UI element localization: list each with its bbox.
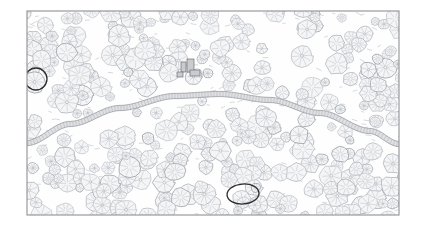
- tree-canopy-symbol: [200, 50, 210, 59]
- tree-canopy-symbol: [296, 89, 308, 100]
- canopy-outline: [344, 73, 358, 86]
- canopy-outline: [256, 109, 277, 128]
- tree-canopy-symbol: [371, 17, 379, 25]
- shrub-dash: [322, 202, 326, 203]
- structure-d: [177, 72, 183, 77]
- tree-canopy-symbol: [316, 154, 329, 165]
- tree-canopy-symbol: [69, 65, 91, 85]
- tree-canopy-symbol: [344, 73, 358, 86]
- tree-canopy-symbol: [50, 58, 59, 66]
- tree-canopy-symbol: [146, 18, 155, 26]
- shrub-dash: [195, 214, 198, 215]
- tree-canopy-symbol: [124, 68, 134, 77]
- site-plan-drawing: [0, 0, 426, 228]
- structure-a: [181, 62, 186, 72]
- canopy-outline: [165, 163, 186, 180]
- shrub-dash: [35, 16, 38, 17]
- tree-canopy-symbol: [359, 101, 369, 110]
- shrub-dash: [347, 68, 349, 69]
- tree-canopy-symbol: [370, 117, 380, 126]
- tree-canopy-symbol: [203, 69, 213, 78]
- structure-c: [190, 70, 200, 76]
- tree-canopy-symbol: [256, 109, 277, 128]
- tree-canopy-symbol: [335, 105, 345, 114]
- plan-canvas: [0, 0, 426, 228]
- canopy-outline: [200, 50, 210, 59]
- canopy-outline: [124, 68, 134, 77]
- shrub-dash: [362, 124, 366, 125]
- tree-canopy-symbol: [165, 163, 186, 180]
